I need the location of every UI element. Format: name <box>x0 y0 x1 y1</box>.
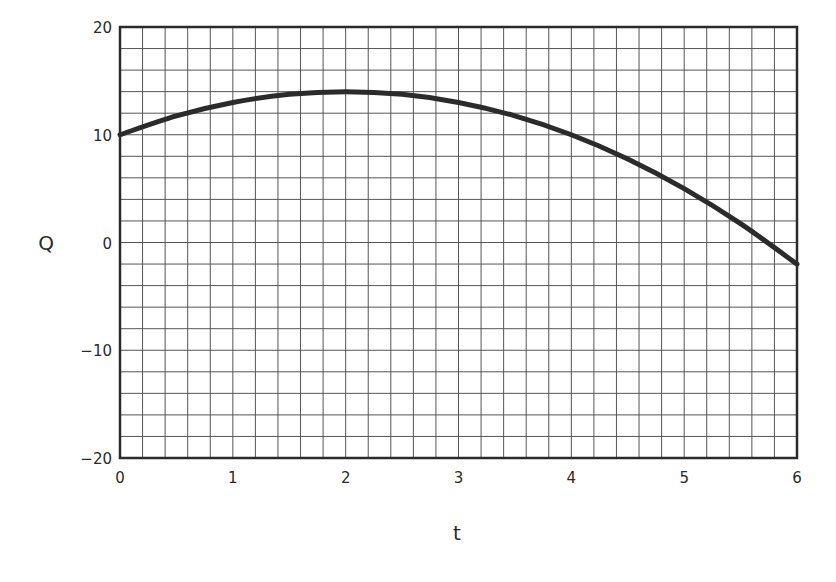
x-tick-label: 4 <box>567 469 577 487</box>
x-tick-label: 1 <box>228 469 238 487</box>
x-tick-label: 6 <box>792 469 802 487</box>
chart: 0123456 20100−10−20 t Q <box>0 0 836 582</box>
x-tick-label: 0 <box>115 469 125 487</box>
x-tick-label: 3 <box>454 469 464 487</box>
y-tick-label: −20 <box>80 450 112 468</box>
y-axis-label: Q <box>38 231 54 255</box>
y-tick-labels: 20100−10−20 <box>80 19 112 468</box>
grid-lines <box>120 27 797 458</box>
y-tick-label: 0 <box>102 235 112 253</box>
y-tick-label: −10 <box>80 342 112 360</box>
x-axis-label: t <box>453 521 461 545</box>
x-tick-labels: 0123456 <box>115 469 802 487</box>
y-tick-label: 10 <box>93 127 112 145</box>
x-tick-label: 5 <box>679 469 689 487</box>
x-tick-label: 2 <box>341 469 351 487</box>
y-tick-label: 20 <box>93 19 112 37</box>
